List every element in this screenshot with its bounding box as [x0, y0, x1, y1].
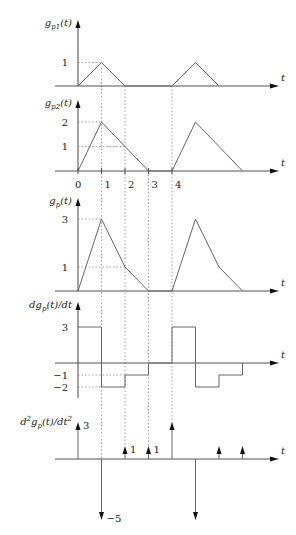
x-tick-label: 3	[152, 179, 158, 190]
y-tick-label: 1	[62, 262, 68, 273]
arrow-up-icon	[76, 198, 81, 206]
arrow-down-icon	[193, 512, 198, 520]
y-tick-label: 1	[62, 141, 68, 152]
signal-curve	[78, 327, 243, 387]
y-axis-label: d2gp(t)/dt2	[20, 415, 72, 430]
t-axis-label: t	[281, 72, 286, 83]
x-tick-label: 2	[128, 179, 134, 190]
impulse-label: 1	[154, 444, 160, 455]
impulse-arrow-icon	[170, 422, 175, 430]
t-axis-label: t	[281, 157, 286, 168]
t-axis-label: t	[281, 277, 286, 288]
plot-gp2: tgp2(t)2101234	[45, 97, 286, 190]
signal-derivative-diagram: tgp1(t)1tgp2(t)2101234tgp(t)31tdgp(t)/dt…	[0, 0, 296, 535]
plot-d2gp: td2gp(t)/dt23−511	[20, 415, 286, 524]
impulse-arrow-icon	[240, 446, 245, 454]
y-tick-label: 3	[62, 322, 68, 333]
plot-dgp: tdgp(t)/dt3−1−2	[29, 299, 286, 398]
plot-gp: tgp(t)31	[49, 195, 286, 294]
impulse-label: −5	[107, 513, 122, 524]
arrow-right-icon	[270, 457, 279, 462]
x-tick-label: 4	[175, 179, 181, 190]
impulse-arrow-icon	[76, 422, 81, 430]
y-axis-label: dgp(t)/dt	[29, 299, 73, 313]
vertical-guides	[102, 68, 173, 459]
signal-curve	[78, 63, 219, 87]
y-axis-label: gp2(t)	[45, 97, 72, 111]
arrow-right-icon	[270, 361, 279, 366]
y-tick-label: −2	[53, 382, 68, 393]
x-tick-label: 1	[105, 179, 111, 190]
t-axis-label: t	[281, 445, 286, 456]
arrow-up-icon	[76, 100, 81, 108]
y-axis-label: gp1(t)	[45, 17, 72, 31]
signal-curve	[78, 219, 243, 291]
y-tick-label: −1	[53, 370, 68, 381]
impulse-arrow-icon	[123, 446, 128, 454]
plot-gp1: tgp1(t)1	[45, 17, 286, 89]
impulse-label: 3	[83, 420, 89, 431]
arrow-right-icon	[270, 84, 279, 89]
y-tick-label: 3	[62, 214, 68, 225]
y-tick-label: 1	[62, 57, 68, 68]
impulse-arrow-icon	[217, 446, 222, 454]
arrow-right-icon	[270, 289, 279, 294]
arrow-up-icon	[76, 20, 81, 28]
impulse-arrow-icon	[146, 446, 151, 454]
t-axis-label: t	[281, 349, 286, 360]
arrow-right-icon	[270, 169, 279, 174]
x-tick-label: 0	[75, 179, 81, 190]
arrow-up-icon	[76, 302, 81, 310]
impulse-label: 1	[130, 444, 136, 455]
y-axis-label: gp(t)	[49, 195, 72, 209]
y-tick-label: 2	[62, 117, 68, 128]
arrow-down-icon	[99, 512, 104, 520]
